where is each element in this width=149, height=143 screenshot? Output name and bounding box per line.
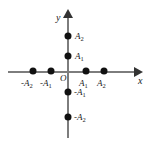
x-axis-line <box>8 71 138 73</box>
point-label-x-neg-a2: -A2 <box>21 79 33 88</box>
point-label-subscript: 2 <box>103 82 106 89</box>
y-axis-arrow-icon <box>63 9 73 18</box>
data-point-y-neg-a2 <box>65 114 72 121</box>
point-label-y-neg-a1: -A1 <box>74 88 86 97</box>
data-point-x-neg-a1 <box>48 68 55 75</box>
point-label-y-pos-a1: A1 <box>75 52 84 61</box>
point-label-y-neg-a2: -A2 <box>74 113 86 122</box>
point-label-text: A <box>75 51 81 61</box>
point-label-subscript: 1 <box>49 82 52 89</box>
point-label-x-pos-a2: A2 <box>97 79 106 88</box>
point-label-text: -A <box>74 112 83 122</box>
point-label-x-neg-a1: -A1 <box>40 79 52 88</box>
data-point-y-pos-a2 <box>65 33 72 40</box>
point-label-y-pos-a2: A2 <box>75 32 84 41</box>
data-point-y-neg-a1 <box>65 89 72 96</box>
point-label-text: A <box>97 78 103 88</box>
data-point-x-pos-a2 <box>101 68 108 75</box>
data-point-x-pos-a1 <box>83 68 90 75</box>
point-label-subscript: 2 <box>81 35 84 42</box>
y-axis-label: y <box>56 13 60 23</box>
point-label-text: -A <box>21 78 30 88</box>
data-point-x-neg-a2 <box>30 68 37 75</box>
origin-label: O <box>60 74 67 83</box>
point-label-subscript: 2 <box>83 116 86 123</box>
coordinate-plane-figure: x y O -A2-A1A1A2A2A1-A1-A2 <box>0 0 149 143</box>
point-label-text: -A <box>40 78 49 88</box>
x-axis-label: x <box>138 76 142 86</box>
point-label-subscript: 1 <box>81 55 84 62</box>
point-label-text: -A <box>74 87 83 97</box>
data-point-y-pos-a1 <box>65 53 72 60</box>
point-label-subscript: 2 <box>30 82 33 89</box>
point-label-subscript: 1 <box>83 91 86 98</box>
point-label-text: A <box>75 31 81 41</box>
